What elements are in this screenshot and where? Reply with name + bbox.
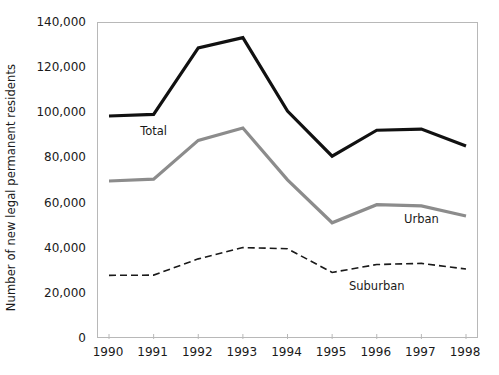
series-line-urban xyxy=(109,128,466,223)
y-tick-label: 0 xyxy=(78,331,86,345)
y-axis-tick-labels: 020,00040,00060,00080,000100,000120,0001… xyxy=(24,22,92,338)
y-axis-title: Number of new legal permanent residents xyxy=(0,0,22,375)
series-label-suburban: Suburban xyxy=(349,279,405,293)
x-tick-label: 1993 xyxy=(227,345,258,359)
x-tick-label: 1996 xyxy=(360,345,391,359)
y-tick-label: 100,000 xyxy=(36,105,86,119)
x-axis-tick-labels: 199019911992199319941995199619971998 xyxy=(97,343,478,365)
y-tick-label: 120,000 xyxy=(36,60,86,74)
line-chart: Number of new legal permanent residents … xyxy=(0,0,499,375)
y-tick-label: 80,000 xyxy=(44,150,86,164)
series-line-total xyxy=(109,38,466,157)
x-tick-label: 1991 xyxy=(137,345,168,359)
series-line-suburban xyxy=(109,248,466,276)
x-tick-label: 1995 xyxy=(316,345,347,359)
y-tick-label: 60,000 xyxy=(44,196,86,210)
x-tick-label: 1997 xyxy=(405,345,436,359)
series-label-total: Total xyxy=(140,124,167,138)
x-tick-label: 1998 xyxy=(450,345,481,359)
series-layer xyxy=(109,38,466,339)
plot-area: TotalUrbanSuburban xyxy=(97,22,478,338)
y-tick-label: 40,000 xyxy=(44,241,86,255)
x-tick-label: 1994 xyxy=(271,345,302,359)
y-tick-label: 140,000 xyxy=(36,15,86,29)
series-label-urban: Urban xyxy=(404,212,439,226)
y-tick-label: 20,000 xyxy=(44,286,86,300)
x-tick-label: 1992 xyxy=(182,345,213,359)
plot-svg xyxy=(98,23,479,339)
x-tick-label: 1990 xyxy=(93,345,124,359)
